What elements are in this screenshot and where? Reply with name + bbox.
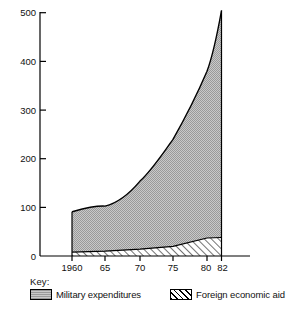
legend-label-foreign-aid: Foreign economic aid bbox=[196, 289, 285, 300]
hatch-swatch bbox=[170, 289, 192, 300]
y-tick-label-100: 100 bbox=[20, 202, 36, 213]
chart-legend: Key: Military expenditures Foreign econo… bbox=[30, 276, 292, 300]
x-tick-marks bbox=[72, 256, 222, 261]
legend-title: Key: bbox=[30, 276, 292, 287]
y-tick-label-200: 200 bbox=[20, 153, 36, 164]
y-tick-label-300: 300 bbox=[20, 105, 36, 116]
legend-entry-foreign-aid: Foreign economic aid bbox=[170, 289, 285, 300]
x-tick-label-1960: 1960 bbox=[61, 262, 82, 273]
legend-label-military: Military expenditures bbox=[56, 289, 141, 300]
legend-entry-military: Military expenditures bbox=[30, 289, 170, 300]
x-tick-label-65: 65 bbox=[100, 262, 111, 273]
x-tick-label-82: 82 bbox=[217, 262, 228, 273]
y-tick-label-500: 500 bbox=[20, 7, 36, 18]
x-tick-label-75: 75 bbox=[168, 262, 179, 273]
y-tick-label-0: 0 bbox=[31, 251, 36, 262]
legend-row: Military expenditures Foreign economic a… bbox=[30, 289, 292, 300]
x-tick-label-70: 70 bbox=[135, 262, 146, 273]
y-tick-label-400: 400 bbox=[20, 56, 36, 67]
gray-swatch bbox=[30, 289, 52, 300]
series-area-military bbox=[72, 11, 222, 257]
y-tick-marks bbox=[40, 13, 46, 208]
chart-plot-area: 500 400 300 200 100 0 1960 65 70 75 80 8… bbox=[0, 0, 302, 313]
area-chart-figure: 500 400 300 200 100 0 1960 65 70 75 80 8… bbox=[0, 0, 302, 313]
x-tick-label-80: 80 bbox=[201, 262, 212, 273]
